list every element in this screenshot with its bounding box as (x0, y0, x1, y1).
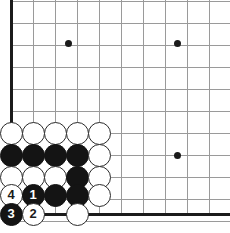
stone-white[interactable] (44, 122, 67, 145)
stone-move-number: 2 (29, 207, 36, 220)
stone-white-move-2[interactable]: 2 (22, 203, 45, 226)
stone-white[interactable] (66, 203, 89, 226)
stone-white[interactable] (88, 144, 111, 167)
grid-line-vertical (209, 0, 210, 214)
stone-white[interactable] (88, 122, 111, 145)
stone-white[interactable] (88, 184, 111, 207)
grid-line-vertical (165, 0, 166, 214)
star-point (174, 152, 181, 159)
grid-line-vertical (187, 0, 188, 214)
stone-move-number: 3 (7, 207, 14, 220)
stone-move-number: 4 (7, 188, 14, 201)
stone-black-move-3[interactable]: 3 (0, 203, 23, 226)
grid-line-vertical (121, 0, 122, 214)
star-point (174, 40, 181, 47)
stone-black[interactable] (66, 144, 89, 167)
stone-black[interactable] (44, 184, 67, 207)
stone-black[interactable] (44, 144, 67, 167)
grid-line-horizontal (11, 221, 230, 222)
stone-black[interactable] (0, 144, 23, 167)
star-point (65, 40, 72, 47)
stone-black[interactable] (22, 144, 45, 167)
stone-white[interactable] (0, 122, 23, 145)
go-board: 4132 (0, 0, 230, 233)
stone-white[interactable] (22, 122, 45, 145)
stone-move-number: 1 (29, 188, 36, 201)
stone-white[interactable] (66, 122, 89, 145)
grid-line-vertical (143, 0, 144, 214)
